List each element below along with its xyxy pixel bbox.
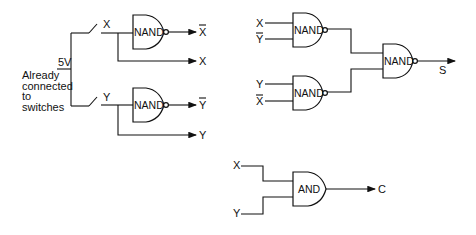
gate-label: NAND [384, 55, 414, 67]
out-y-label: Y [199, 129, 207, 141]
gate-label: NAND [294, 24, 324, 36]
nand-gate-x: NAND [133, 15, 168, 49]
out-x-bar-label: X [199, 26, 207, 38]
carry-output-label: C [378, 183, 386, 195]
sum-circuit: X Y NAND Y X NAND NAND S [256, 13, 455, 110]
switch-y: Y [71, 91, 133, 106]
note-line-4: switches [22, 101, 65, 113]
gate2-input-y: Y [256, 78, 264, 90]
switch-y-label: Y [103, 91, 111, 103]
gate1-input-x: X [256, 17, 264, 29]
carry-input-y: Y [233, 207, 241, 219]
nand-gate-2: NAND [293, 76, 327, 110]
switch-x: X [71, 18, 133, 33]
gate-label: NAND [134, 26, 164, 38]
carry-input-x: X [233, 159, 241, 171]
out-x-label: X [199, 55, 207, 67]
nand-gate-1: NAND [293, 13, 327, 47]
switch-x-label: X [103, 18, 111, 30]
nand-gate-3: NAND [383, 44, 417, 78]
gate-label: AND [298, 183, 321, 195]
nand-gate-y: NAND [133, 88, 168, 122]
logic-diagram: 5V Already connected to switches X NAND … [0, 0, 476, 235]
gate-label: NAND [134, 99, 164, 111]
sum-output-label: S [439, 64, 446, 76]
supply-label: 5V [58, 56, 72, 68]
gate-label: NAND [294, 87, 324, 99]
gate2-input-x-bar: X [256, 95, 264, 107]
and-gate: AND [293, 172, 326, 206]
carry-circuit: X Y AND C [233, 159, 386, 219]
gate1-input-y-bar: Y [256, 33, 264, 45]
out-y-bar-label: Y [199, 99, 207, 111]
input-stage-circuit: 5V Already connected to switches X NAND … [22, 15, 207, 141]
